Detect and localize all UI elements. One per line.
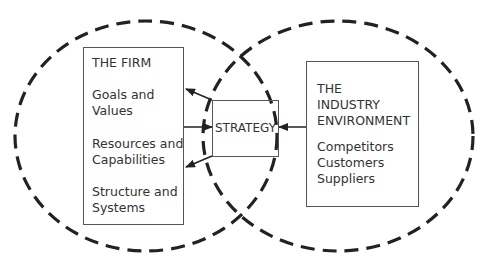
industry-title-line3: ENVIRONMENT <box>317 113 410 129</box>
industry-customers: Customers <box>317 155 384 171</box>
firm-resources-line2: Capabilities <box>92 152 165 168</box>
firm-goals-line1: Goals and <box>92 87 154 103</box>
firm-title: THE FIRM <box>92 55 151 71</box>
industry-title-line1: THE <box>317 81 342 97</box>
strategy-label: STRATEGY <box>215 120 276 136</box>
industry-title-line2: INDUSTRY <box>317 97 380 113</box>
firm-resources-line1: Resources and <box>92 136 183 152</box>
industry-competitors: Competitors <box>317 139 394 155</box>
firm-structure-line2: Systems <box>92 200 145 216</box>
firm-goals-line2: Values <box>92 103 133 119</box>
arrow-strategy-to-goals <box>186 89 212 100</box>
industry-suppliers: Suppliers <box>317 171 375 187</box>
firm-structure-line1: Structure and <box>92 184 178 200</box>
